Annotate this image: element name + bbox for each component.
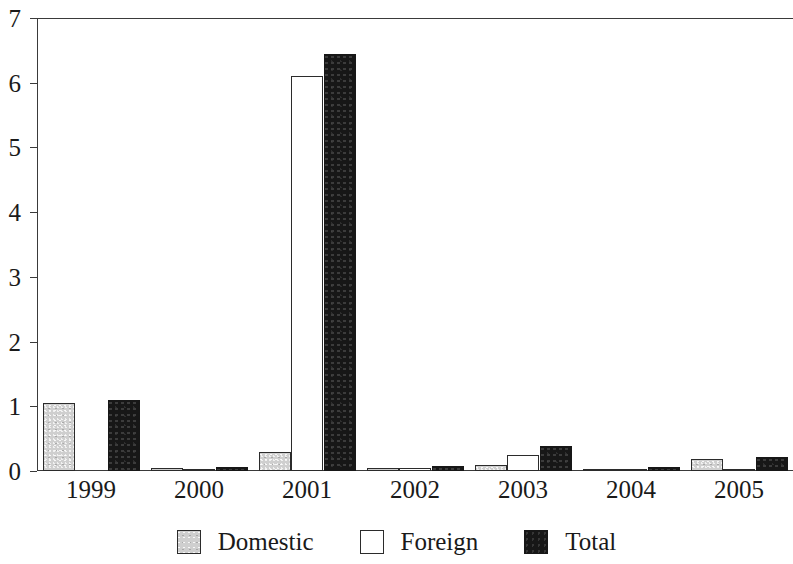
y-tick: 2: [30, 342, 37, 343]
y-tick-label: 2: [9, 330, 22, 355]
x-tick-label-2002: 2002: [390, 477, 440, 502]
bar-total-2004: [648, 467, 680, 471]
legend-item-domestic[interactable]: Domestic: [177, 529, 314, 554]
y-tick-label: 5: [9, 135, 22, 160]
y-tick-label: 3: [9, 265, 22, 290]
bar-total-1999: [108, 400, 140, 471]
bar-foreign-2002: [399, 468, 431, 471]
y-tick-label: 7: [9, 6, 22, 31]
plot-area: 01234567: [37, 18, 793, 471]
x-tick-label-2005: 2005: [714, 477, 764, 502]
x-tick-label-2003: 2003: [498, 477, 548, 502]
y-tick-label: 0: [9, 459, 22, 484]
legend-swatch-domestic-icon: [177, 530, 201, 554]
y-tick: 4: [30, 212, 37, 213]
bar-domestic-1999: [43, 403, 75, 471]
legend-item-foreign[interactable]: Foreign: [360, 529, 479, 554]
legend-label: Total: [565, 529, 616, 554]
y-tick: 7: [30, 18, 37, 19]
y-tick: 1: [30, 406, 37, 407]
y-tick-label: 4: [9, 200, 22, 225]
x-tick-label-2000: 2000: [174, 477, 224, 502]
x-tick-label-2004: 2004: [606, 477, 656, 502]
legend-swatch-total-icon: [524, 530, 548, 554]
chart-figure: 01234567 1999200020012002200320042005 Do…: [0, 0, 793, 564]
bar-total-2000: [216, 467, 248, 471]
y-tick-label: 6: [9, 71, 22, 96]
x-tick-label-1999: 1999: [66, 477, 116, 502]
y-tick: 0: [30, 471, 37, 472]
legend-label: Foreign: [401, 529, 479, 554]
y-tick: 5: [30, 147, 37, 148]
bar-domestic-2003: [475, 465, 507, 471]
bar-domestic-2000: [151, 468, 183, 471]
bar-foreign-2001: [291, 76, 323, 471]
bar-domestic-2005: [691, 459, 723, 471]
bar-total-2005: [756, 457, 788, 471]
legend-label: Domestic: [218, 529, 314, 554]
bar-total-2002: [432, 466, 464, 471]
bar-domestic-2001: [259, 452, 291, 471]
chart-legend: DomesticForeignTotal: [0, 529, 793, 554]
y-tick: 6: [30, 83, 37, 84]
bar-foreign-2004: [615, 469, 647, 472]
y-tick-label: 1: [9, 394, 22, 419]
legend-swatch-foreign-icon: [360, 530, 384, 554]
legend-item-total[interactable]: Total: [524, 529, 616, 554]
y-axis-line: [37, 18, 38, 471]
bar-foreign-2000: [183, 469, 215, 472]
x-tick-label-2001: 2001: [282, 477, 332, 502]
bar-total-2003: [540, 446, 572, 471]
bar-total-2001: [324, 54, 356, 471]
y-tick: 3: [30, 277, 37, 278]
bar-foreign-2003: [507, 455, 539, 471]
plot-top-border: [37, 18, 793, 19]
bar-foreign-2005: [723, 469, 755, 472]
bar-domestic-2004: [583, 469, 615, 472]
bar-domestic-2002: [367, 468, 399, 471]
